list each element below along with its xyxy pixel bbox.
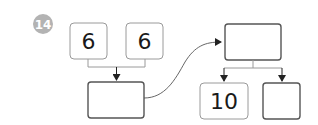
given-box-part-a: 10: [200, 83, 248, 119]
problem-number: 14: [35, 18, 52, 32]
answer-box-sum[interactable]: [88, 82, 144, 118]
answer-box-whole[interactable]: [225, 24, 281, 60]
given-box-left-b: 6: [126, 23, 163, 59]
number-bond-diagram: 14 6 6 10: [0, 0, 318, 125]
given-value: 6: [138, 29, 152, 54]
given-value: 10: [210, 89, 238, 114]
given-value: 6: [82, 29, 96, 54]
problem-number-badge: 14: [33, 14, 53, 34]
answer-box-part-b[interactable]: [263, 83, 300, 119]
join-bracket: [88, 59, 145, 67]
given-box-left-a: 6: [70, 23, 107, 59]
